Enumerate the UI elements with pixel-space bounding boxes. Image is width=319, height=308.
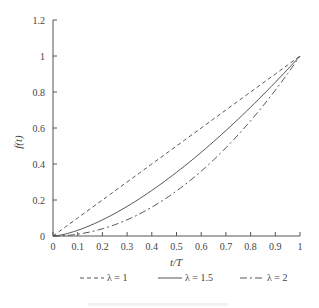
x-tick-label: 0.4 [146, 241, 159, 252]
x-tick-label: 0.9 [269, 241, 282, 252]
y-tick-label: 1 [40, 51, 45, 62]
y-axis-label: f(t) [12, 135, 25, 149]
x-tick-label: 0 [51, 241, 56, 252]
x-tick-label: 0.7 [220, 241, 233, 252]
y-tick-label: 0.6 [33, 123, 46, 134]
x-tick-label: 0.3 [121, 241, 134, 252]
x-tick-label: 1 [298, 241, 303, 252]
chart-axes: 00.20.40.60.811.200.10.20.30.40.50.60.70… [33, 15, 303, 253]
y-tick-label: 0.2 [33, 195, 46, 206]
x-tick-label: 0.1 [71, 241, 84, 252]
legend-label: λ = 1.5 [185, 272, 213, 283]
series-line [53, 56, 300, 236]
legend-label: λ = 2 [267, 272, 288, 283]
caption-placeholder [88, 303, 228, 306]
x-tick-label: 0.5 [170, 241, 183, 252]
x-tick-label: 0.8 [244, 241, 257, 252]
line-chart: 00.20.40.60.811.200.10.20.30.40.50.60.70… [0, 0, 319, 308]
y-tick-label: 1.2 [33, 15, 46, 26]
x-axis-label: t/T [170, 256, 183, 268]
y-tick-label: 0.8 [33, 87, 46, 98]
chart-series [53, 56, 300, 236]
y-tick-label: 0.4 [33, 159, 46, 170]
x-tick-label: 0.2 [96, 241, 109, 252]
y-tick-label: 0 [40, 231, 45, 242]
chart-legend: λ = 1λ = 1.5λ = 2 [80, 272, 288, 283]
legend-label: λ = 1 [107, 272, 128, 283]
x-tick-label: 0.6 [195, 241, 208, 252]
